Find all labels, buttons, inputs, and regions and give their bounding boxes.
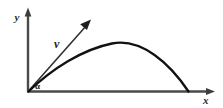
projectile-motion-figure: y x v α — [0, 0, 223, 108]
x-axis-label: x — [202, 94, 209, 106]
projectile-diagram-canvas: y x v α — [0, 0, 223, 108]
y-axis-arrowhead-icon — [25, 8, 32, 17]
y-axis — [25, 8, 32, 92]
launch-angle-label: α — [35, 81, 40, 91]
velocity-label: v — [54, 37, 60, 51]
y-axis-label: y — [13, 11, 20, 23]
trajectory-curve — [29, 43, 189, 92]
velocity-arrowhead-icon — [80, 20, 91, 31]
